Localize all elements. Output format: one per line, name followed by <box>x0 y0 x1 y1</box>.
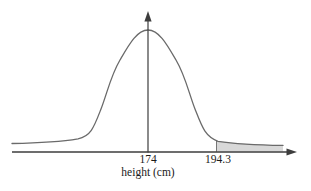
normal-distribution-chart: 174 194.3 height (cm) <box>0 0 311 191</box>
boundary-tick-label: 194.3 <box>205 153 231 165</box>
x-axis-label: height (cm) <box>121 166 174 179</box>
mean-tick-label: 174 <box>139 153 157 165</box>
y-axis-arrowhead-icon <box>144 11 151 22</box>
x-axis-arrowhead-icon <box>287 148 298 155</box>
distribution-figure: 174 194.3 height (cm) <box>0 0 311 191</box>
